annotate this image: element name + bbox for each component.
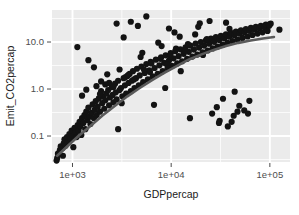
data-point (206, 18, 212, 24)
data-point (187, 115, 193, 121)
data-point (164, 62, 170, 68)
data-point (141, 66, 147, 72)
data-point (151, 102, 157, 108)
x-tick-label: 1e+05 (257, 169, 284, 180)
data-point (195, 24, 201, 30)
data-point (83, 87, 89, 93)
y-tick-label: 10.0 (26, 36, 45, 47)
data-point (204, 36, 210, 42)
data-point (209, 110, 215, 116)
plot-panel (52, 10, 290, 164)
data-point (214, 104, 220, 110)
data-point (93, 83, 99, 89)
data-point (147, 69, 153, 75)
y-axis-title: Emit_CO2percap (4, 46, 16, 127)
data-point (110, 84, 116, 90)
y-tick-label: 1.0 (31, 83, 44, 94)
data-point (135, 23, 141, 29)
data-point (173, 46, 179, 52)
data-point (157, 56, 163, 62)
data-point (182, 47, 188, 53)
x-axis-title: GDPpercap (144, 188, 199, 200)
data-point (115, 126, 121, 132)
data-point (178, 68, 184, 74)
data-point (220, 96, 226, 102)
data-point (185, 41, 191, 47)
data-point (128, 19, 134, 25)
data-point (225, 123, 231, 129)
data-point (232, 89, 238, 95)
data-point (276, 27, 282, 33)
data-point (216, 120, 222, 126)
scatter-chart: 1e+031e+041e+05 10.01.00.1 GDPpercap Emi… (0, 0, 299, 215)
data-point (138, 54, 144, 60)
data-point (231, 113, 237, 119)
data-point (223, 20, 229, 26)
data-point (167, 53, 173, 59)
data-point (121, 34, 127, 40)
data-point (85, 57, 91, 63)
data-point (70, 144, 76, 150)
data-point (125, 72, 131, 78)
data-point (241, 107, 247, 113)
data-point (104, 71, 110, 77)
data-point (98, 78, 104, 84)
data-point (143, 13, 149, 19)
data-point (97, 91, 103, 97)
data-point (74, 44, 80, 50)
data-point (79, 93, 85, 99)
y-tick-label: 0.1 (31, 130, 44, 141)
data-point (148, 60, 154, 66)
data-point (246, 98, 252, 104)
data-point (166, 25, 172, 31)
plot-root: 1e+031e+041e+05 10.01.00.1 GDPpercap Emi… (0, 0, 299, 215)
x-tick-label: 1e+03 (59, 169, 86, 180)
data-point (177, 34, 183, 40)
data-point (266, 22, 272, 28)
data-point (131, 76, 137, 82)
data-point (192, 31, 198, 37)
data-point (236, 103, 242, 109)
data-point (226, 26, 232, 32)
data-point (159, 43, 165, 49)
data-point (162, 85, 168, 91)
data-point (115, 78, 121, 84)
data-point (116, 66, 122, 72)
data-point (114, 20, 120, 26)
data-point (91, 64, 97, 70)
x-tick-label: 1e+04 (158, 169, 185, 180)
data-point (171, 29, 177, 35)
